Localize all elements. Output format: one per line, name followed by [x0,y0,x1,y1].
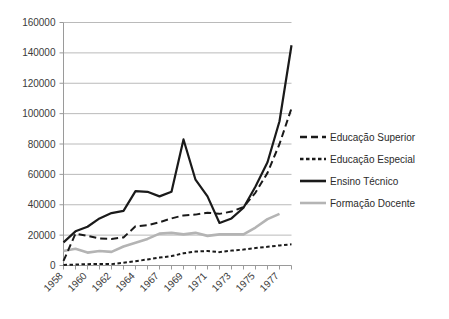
x-axis-tick-label: 1967 [137,270,161,294]
x-axis-tick-label: 1960 [65,270,89,294]
line-chart-figure: 0200004000060000800001000001200001400001… [0,0,449,319]
x-axis-tickmarks [64,266,292,270]
y-axis-tick-label: 60000 [28,169,56,180]
x-axis-tick-label: 1977 [257,270,281,294]
x-axis-tick-label: 1962 [89,270,113,294]
x-axis-tick-label: 1971 [185,270,209,294]
data-series [64,45,292,265]
y-axis-tick-label: 140000 [22,47,56,58]
series-line-educa-o-especial [64,244,292,265]
y-axis-tick-label: 160000 [22,17,56,28]
chart-canvas: 0200004000060000800001000001200001400001… [0,0,449,319]
x-axis-tick-labels: 1958196019621964196719691971197319751977 [41,270,281,294]
x-axis-tick-label: 1958 [41,270,65,294]
y-axis-tick-label: 20000 [28,230,56,241]
legend-label: Formação Docente [330,198,415,209]
y-axis-tick-labels: 0200004000060000800001000001200001400001… [22,17,56,271]
gridlines [64,23,292,236]
y-axis-tick-label: 100000 [22,108,56,119]
x-axis-tick-label: 1969 [161,270,185,294]
legend-label: Ensino Técnico [330,176,399,187]
y-axis-tick-label: 120000 [22,78,56,89]
x-axis-tick-label: 1973 [209,270,233,294]
y-axis-tick-label: 80000 [28,139,56,150]
x-axis-tick-label: 1975 [233,270,257,294]
legend-label: Educação Especial [330,154,415,165]
y-axis-tick-label: 40000 [28,199,56,210]
legend-label: Educação Superior [330,132,416,143]
y-axis-tick-label: 0 [50,260,56,271]
x-axis-tick-label: 1964 [113,270,137,294]
y-axis-tickmarks [60,23,64,266]
chart-legend: Educação SuperiorEducação EspecialEnsino… [300,132,416,209]
